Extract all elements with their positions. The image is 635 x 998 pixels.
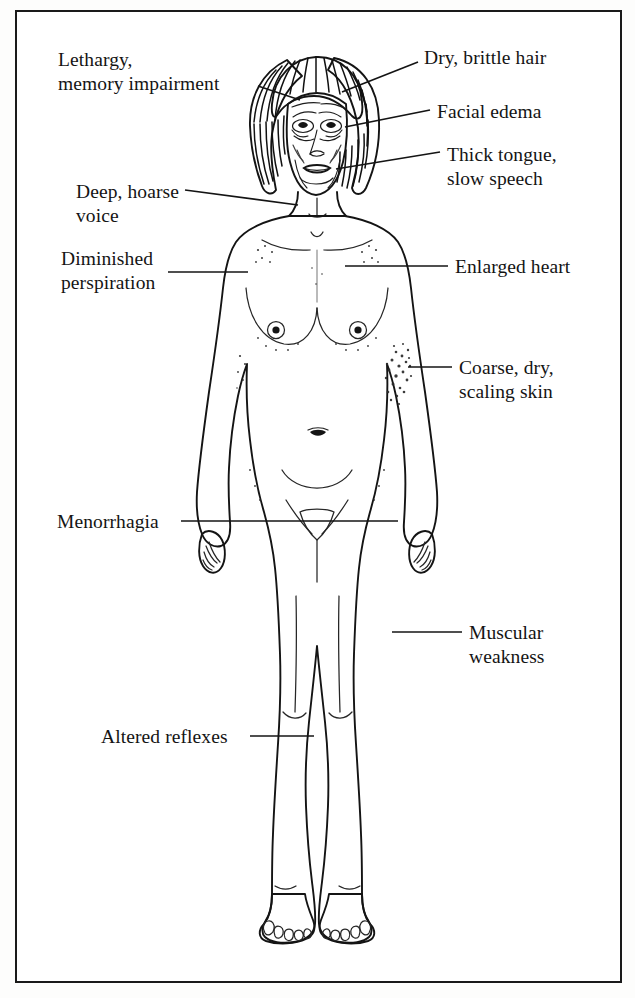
leader-voice — [185, 190, 298, 205]
label-diminished-perspiration: Diminished perspiration — [61, 247, 155, 295]
label-lethargy: Lethargy, memory impairment — [58, 48, 219, 96]
label-dry-brittle-hair: Dry, brittle hair — [424, 46, 546, 70]
label-coarse-dry-scaling-skin: Coarse, dry, scaling skin — [459, 356, 554, 404]
label-menorrhagia: Menorrhagia — [57, 510, 159, 534]
label-enlarged-heart: Enlarged heart — [455, 255, 570, 279]
label-deep-hoarse-voice: Deep, hoarse voice — [76, 180, 179, 228]
label-thick-tongue: Thick tongue, slow speech — [447, 143, 557, 191]
label-altered-reflexes: Altered reflexes — [101, 725, 228, 749]
diagram-stage: Lethargy, memory impairment Dry, brittle… — [0, 0, 635, 998]
leader-lines — [168, 62, 462, 736]
label-muscular-weakness: Muscular weakness — [469, 621, 545, 669]
label-facial-edema: Facial edema — [437, 100, 542, 124]
